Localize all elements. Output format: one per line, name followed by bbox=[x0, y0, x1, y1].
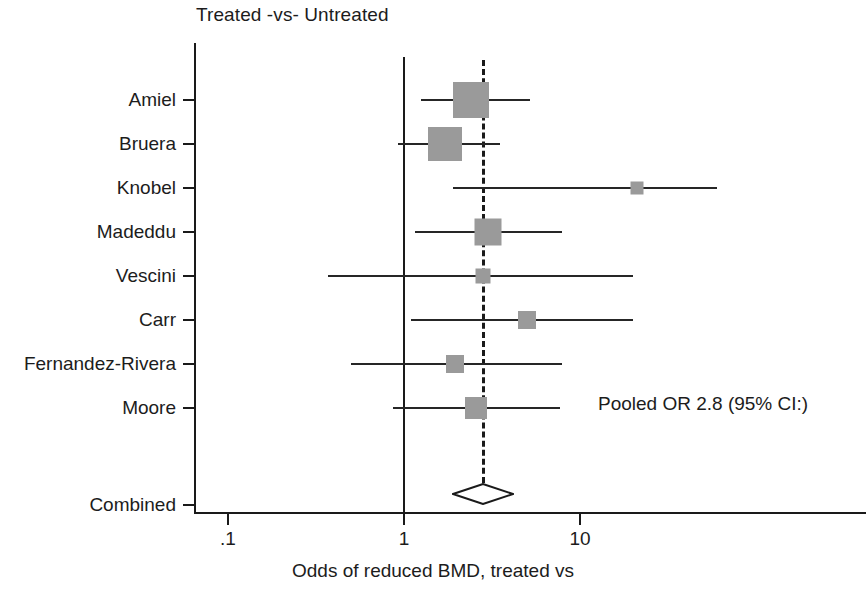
effect-size-box bbox=[446, 355, 464, 373]
study-label-bruera: Bruera bbox=[119, 133, 176, 155]
null-reference-line bbox=[403, 57, 405, 513]
x-axis-tick-label: .1 bbox=[220, 528, 236, 550]
forest-plot: Treated -vs- Untreated AmielBrueraKnobel… bbox=[0, 0, 866, 592]
y-axis-tick bbox=[183, 504, 195, 506]
study-label-knobel: Knobel bbox=[117, 177, 176, 199]
x-axis-tick bbox=[579, 514, 581, 525]
study-label-amiel: Amiel bbox=[128, 89, 176, 111]
y-axis-tick bbox=[183, 187, 195, 189]
effect-size-box bbox=[474, 219, 501, 246]
effect-size-box bbox=[630, 182, 643, 195]
x-axis-tick bbox=[227, 514, 229, 525]
effect-size-box bbox=[428, 127, 462, 161]
confidence-interval-line bbox=[453, 187, 717, 189]
y-axis-tick bbox=[183, 319, 195, 321]
study-label-combined: Combined bbox=[89, 494, 176, 516]
combined-diamond bbox=[452, 483, 514, 505]
pooled-or-annotation: Pooled OR 2.8 (95% CI:) bbox=[598, 393, 808, 415]
x-axis-tick-label: 10 bbox=[569, 528, 590, 550]
study-label-moore: Moore bbox=[122, 397, 176, 419]
study-label-carr: Carr bbox=[139, 309, 176, 331]
y-axis-tick bbox=[183, 363, 195, 365]
y-axis-tick bbox=[183, 99, 195, 101]
effect-size-box bbox=[453, 82, 489, 118]
x-axis-tick bbox=[403, 514, 405, 525]
x-axis-label: Odds of reduced BMD, treated vs bbox=[0, 560, 866, 582]
x-axis-tick-label: 1 bbox=[399, 528, 410, 550]
study-label-fernandez-rivera: Fernandez-Rivera bbox=[24, 353, 176, 375]
y-axis-tick bbox=[183, 407, 195, 409]
chart-title: Treated -vs- Untreated bbox=[196, 4, 389, 26]
y-axis-tick bbox=[183, 275, 195, 277]
y-axis-tick bbox=[183, 143, 195, 145]
study-label-madeddu: Madeddu bbox=[97, 221, 176, 243]
x-axis-line bbox=[194, 512, 866, 514]
study-label-vescini: Vescini bbox=[116, 265, 176, 287]
y-axis-tick bbox=[183, 231, 195, 233]
effect-size-box bbox=[475, 269, 490, 284]
y-axis-line bbox=[194, 43, 196, 514]
effect-size-box bbox=[518, 311, 536, 329]
effect-size-box bbox=[465, 397, 487, 419]
